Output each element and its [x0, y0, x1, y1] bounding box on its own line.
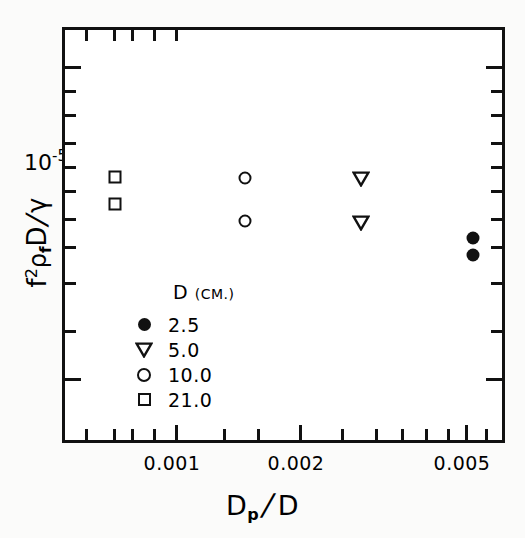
legend-item-21-2: 21.0 — [131, 387, 291, 412]
y-tick-left — [65, 282, 76, 285]
legend-title-units: (CM.) — [195, 286, 235, 302]
x-label-d: D — [226, 490, 247, 521]
y-tick-right — [491, 218, 502, 221]
x-tick-bottom — [153, 429, 156, 440]
x-tick-bottom — [401, 429, 404, 440]
y-label-f-exponent: 2 — [22, 268, 41, 278]
y-tick-left — [65, 142, 76, 145]
x-tick-bottom — [223, 429, 226, 440]
open-square-icon — [131, 393, 157, 406]
data-point-21-2-b — [109, 198, 122, 211]
y-label-rho-subscript: f — [37, 246, 55, 253]
y-tick-left — [65, 190, 76, 193]
data-point-2-5-a — [467, 232, 480, 245]
legend-title-symbol: D — [173, 281, 188, 303]
data-point-2-5-b — [467, 249, 480, 262]
x-tick-bottom-major — [299, 425, 302, 440]
x-tick-top — [113, 30, 116, 41]
legend-label-10-0: 10.0 — [168, 364, 212, 386]
x-label-denominator: D — [278, 490, 299, 521]
open-circle-icon — [131, 368, 157, 382]
x-tick-bottom — [113, 429, 116, 440]
legend-title: D (CM.) — [173, 281, 291, 303]
legend-item-2-5: 2.5 — [131, 312, 291, 337]
legend-item-10-0: 10.0 — [131, 362, 291, 387]
y-tick-right — [491, 246, 502, 249]
y-tick-right — [491, 282, 502, 285]
y-tick-right — [491, 90, 502, 93]
legend-item-5-0: 5.0 — [131, 337, 291, 362]
x-tick-top — [85, 30, 88, 41]
y-tick-right-major — [486, 66, 502, 69]
legend-label-21-2: 21.0 — [168, 389, 212, 411]
legend-label-5-0: 5.0 — [168, 339, 200, 361]
x-tick-label-0-005: 0.005 — [434, 452, 491, 474]
y-tick-right-major — [486, 378, 502, 381]
x-tick-top — [175, 30, 178, 41]
y-tick-right — [491, 142, 502, 145]
data-point-10-0-a — [239, 172, 252, 185]
x-tick-bottom — [131, 429, 134, 440]
x-tick-top — [153, 30, 156, 41]
y-tick-left — [65, 246, 76, 249]
data-point-10-0-b — [239, 215, 252, 228]
y-tick-right — [491, 166, 502, 169]
legend-label-2-5: 2.5 — [168, 314, 200, 336]
x-tick-bottom-major — [465, 425, 468, 440]
x-tick-top — [131, 30, 134, 41]
x-tick-bottom — [485, 429, 488, 440]
figure-canvas: f2ρfD/γ 10-5 — [0, 0, 525, 538]
y-tick-right — [491, 330, 502, 333]
y-tick-left — [65, 330, 76, 333]
plot-frame: D (CM.) 2.5 5.0 — [62, 27, 505, 443]
data-point-21-2-a — [109, 171, 122, 184]
x-axis-label: Dp/D — [0, 487, 525, 524]
y-tick-right — [491, 190, 502, 193]
x-tick-bottom — [375, 429, 378, 440]
triangle-down-icon — [131, 342, 157, 358]
y-tick-left-major — [65, 66, 81, 69]
y-tick-left — [65, 218, 76, 221]
x-tick-label-0-001: 0.001 — [144, 452, 201, 474]
y-tick-left — [65, 114, 76, 117]
y-label-f: f — [22, 278, 52, 287]
x-tick-label-0-002: 0.002 — [268, 452, 325, 474]
x-tick-bottom — [425, 429, 428, 440]
filled-circle-icon — [131, 318, 157, 331]
y-tick-left — [65, 166, 76, 169]
y-decade-base: 10 — [24, 150, 52, 175]
legend: D (CM.) 2.5 5.0 — [131, 281, 291, 412]
x-tick-bottom — [85, 429, 88, 440]
y-tick-left-major — [65, 378, 81, 381]
y-axis-decade-label: 10-5 — [24, 147, 67, 175]
y-tick-right — [491, 114, 502, 117]
y-label-rho: ρ — [24, 253, 52, 268]
x-tick-bottom-major — [175, 425, 178, 440]
x-tick-bottom — [341, 429, 344, 440]
x-tick-bottom — [257, 429, 260, 440]
y-tick-left — [65, 90, 76, 93]
x-tick-bottom — [447, 429, 450, 440]
